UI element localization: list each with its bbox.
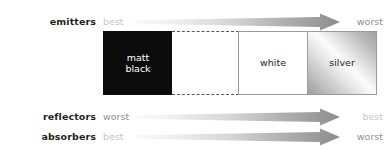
arrow-row-reflectors: worst best — [103, 108, 383, 126]
swatch-white-label: white — [260, 57, 286, 69]
gradient-arrow-right-icon — [134, 108, 352, 126]
swatch-matt-black-label-line1: matt — [127, 52, 150, 63]
emitters-right-rating: worst — [357, 15, 383, 28]
swatch-matt-black: matt black — [103, 31, 173, 95]
absorbers-right-rating: worst — [357, 130, 383, 143]
swatch-unlabelled-white-dashed — [172, 31, 239, 95]
gradient-arrow-right-icon — [134, 128, 352, 146]
absorbers-left-rating: best — [103, 130, 124, 143]
gradient-arrow-right-icon — [134, 13, 352, 31]
swatch-matt-black-label-line2: black — [125, 63, 150, 74]
reflectors-left-rating: worst — [103, 110, 129, 123]
reflectors-right-rating: best — [362, 110, 383, 123]
swatch-silver-label: silver — [329, 57, 355, 69]
arrow-row-emitters: best worst — [103, 13, 383, 31]
row-label-emitters: emitters — [0, 16, 96, 27]
arrow-row-absorbers: best worst — [103, 128, 383, 146]
row-label-absorbers: absorbers — [0, 131, 96, 142]
swatch-silver: silver — [307, 31, 377, 95]
swatch-white: white — [238, 31, 308, 95]
emissivity-scale-diagram: emitters best worst matt black — [0, 0, 386, 150]
row-label-reflectors: reflectors — [0, 111, 96, 122]
material-swatch-strip: matt black white silver — [103, 31, 377, 95]
swatch-matt-black-label: matt black — [125, 52, 150, 75]
emitters-left-rating: best — [103, 15, 124, 28]
